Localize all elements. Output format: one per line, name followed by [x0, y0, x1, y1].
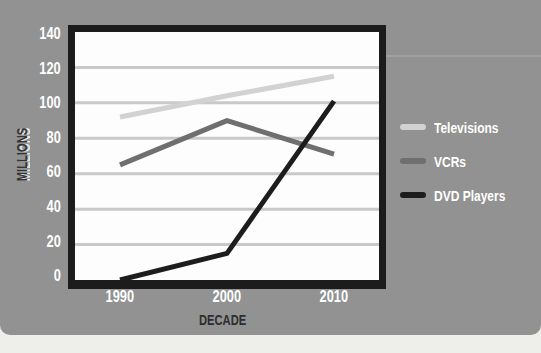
y-tick-100: 100: [0, 94, 61, 111]
x-axis-title-text: DECADE: [199, 312, 246, 328]
plot-svg: [75, 32, 379, 280]
series-line-televisions: [120, 76, 334, 117]
legend-item-dvd-players: DVD Players: [400, 185, 535, 205]
series-line-dvd-players: [120, 101, 334, 280]
televisions-swatch-icon: [400, 124, 426, 130]
y-tick-120: 120: [0, 60, 61, 77]
x-tick-1990: 1990: [90, 288, 150, 305]
chart-card: MILLIONS 140 120 100 80 60 40 20 0 1990 …: [0, 0, 541, 335]
legend-item-vcrs: VCRs: [400, 151, 535, 171]
legend-item-televisions: Televisions: [400, 117, 535, 137]
dvd-players-swatch-icon: [400, 192, 426, 198]
y-tick-40: 40: [0, 198, 61, 215]
vcrs-swatch-icon: [400, 158, 426, 164]
y-tick-80: 80: [0, 129, 61, 146]
page: MILLIONS 140 120 100 80 60 40 20 0 1990 …: [0, 0, 541, 353]
y-tick-140: 140: [0, 25, 61, 42]
y-tick-0: 0: [0, 267, 61, 284]
x-axis-title: DECADE: [148, 312, 298, 328]
legend-label: VCRs: [434, 153, 474, 170]
stray-gridline: [386, 55, 541, 57]
y-tick-60: 60: [0, 163, 61, 180]
y-axis-title: MILLIONS: [13, 95, 31, 215]
y-tick-20: 20: [0, 233, 61, 250]
plot-area: [68, 25, 386, 289]
legend: Televisions VCRs DVD Players: [400, 117, 535, 219]
legend-label: DVD Players: [434, 187, 523, 204]
legend-label: Televisions: [434, 119, 515, 136]
x-tick-2010: 2010: [304, 288, 364, 305]
x-tick-2000: 2000: [197, 288, 257, 305]
